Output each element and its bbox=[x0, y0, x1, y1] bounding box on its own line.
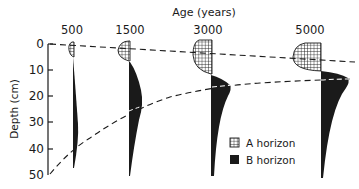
age-label-5000: 5000 bbox=[295, 23, 324, 37]
profile-500 bbox=[69, 42, 78, 168]
chart-title: Age (years) bbox=[172, 6, 236, 19]
b-horizon-500 bbox=[73, 57, 78, 168]
legend-label-b-horizon: B horizon bbox=[246, 154, 295, 166]
profile-1500 bbox=[118, 41, 142, 176]
a-horizon-5000 bbox=[293, 43, 321, 71]
a-horizon-500 bbox=[69, 42, 74, 57]
y-tick-label: 40 bbox=[29, 142, 44, 156]
age-label-500: 500 bbox=[61, 23, 83, 37]
lower-boundary-line bbox=[50, 79, 350, 174]
y-tick-label: 30 bbox=[29, 115, 44, 129]
b-horizon-1500 bbox=[129, 62, 142, 176]
age-label-1500: 1500 bbox=[115, 23, 144, 37]
profile-5000 bbox=[293, 43, 349, 178]
legend-label-a-horizon: A horizon bbox=[246, 137, 295, 149]
b-horizon-3000 bbox=[211, 75, 231, 176]
y-axis: 0 10 20 30 40 50 Depth (cm) bbox=[8, 37, 53, 182]
soil-chronosequence-diagram: Age (years) 500 1500 3000 5000 0 10 20 3… bbox=[0, 0, 359, 189]
y-tick-label: 20 bbox=[29, 89, 44, 103]
legend-swatch-a-horizon bbox=[230, 138, 239, 147]
b-horizon-5000 bbox=[321, 71, 349, 178]
y-tick-label: 10 bbox=[29, 63, 44, 77]
legend: A horizon B horizon bbox=[230, 137, 295, 166]
y-axis-title: Depth (cm) bbox=[8, 79, 20, 139]
legend-swatch-b-horizon bbox=[230, 155, 239, 164]
age-label-3000: 3000 bbox=[193, 23, 222, 37]
y-tick-label: 0 bbox=[36, 37, 44, 51]
y-tick-label: 50 bbox=[29, 168, 44, 182]
a-horizon-3000 bbox=[193, 40, 212, 74]
profile-3000 bbox=[193, 40, 231, 176]
a-horizon-1500 bbox=[118, 41, 130, 61]
